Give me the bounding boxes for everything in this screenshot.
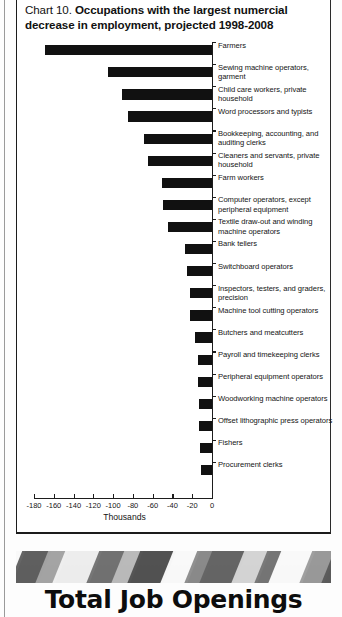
bar [122, 89, 212, 99]
x-axis-tick [212, 494, 213, 499]
bar [201, 465, 212, 475]
bar-label: Offset lithographic press operators [218, 416, 336, 425]
bar [190, 288, 212, 298]
category-tick [212, 241, 216, 242]
bar-row: Fishers [17, 440, 332, 462]
category-tick [212, 396, 216, 397]
chart-title: Chart 10. Occupations with the largest n… [25, 3, 325, 32]
category-tick [212, 285, 216, 286]
bar-label: Woodworking machine operators [218, 394, 336, 403]
bar [199, 399, 212, 409]
bar-row: Bank tellers [17, 241, 332, 263]
category-tick [212, 418, 216, 419]
bar [190, 310, 212, 320]
category-tick [212, 130, 216, 131]
bar-row: Farm workers [17, 175, 332, 197]
category-tick [212, 42, 216, 43]
x-axis-tick [113, 494, 114, 499]
category-tick [212, 351, 216, 352]
x-axis-tick [172, 494, 173, 499]
bar-row: Procurement clerks [17, 462, 332, 484]
bar-row: Computer operators, except peripheral eq… [17, 197, 332, 219]
category-tick [212, 64, 216, 65]
bar-label: Bookkeeping, accounting, and auditing cl… [218, 129, 336, 148]
bar-label: Inspectors, testers, and graders, precis… [218, 284, 336, 303]
bar-row: Switchboard operators [17, 263, 332, 285]
x-axis-tick-label: -140 [66, 501, 81, 510]
x-axis-tick-label: -180 [26, 501, 41, 510]
x-axis-tick [74, 494, 75, 499]
x-axis-title: Thousands [17, 512, 232, 522]
x-axis-tick [192, 494, 193, 499]
x-axis-tick-label: -20 [187, 501, 198, 510]
chart-title-prefix: Chart 10. [25, 3, 75, 16]
bar-row: Child care workers, private household [17, 86, 332, 108]
category-tick [212, 219, 216, 220]
category-tick [212, 153, 216, 154]
bar-row: Sewing machine operators, garment [17, 64, 332, 86]
bar-label: Cleaners and servants, private household [218, 151, 336, 170]
bar-label: Word processors and typists [218, 107, 336, 116]
bar-label: Machine tool cutting operators [218, 306, 336, 315]
bar-row: Machine tool cutting operators [17, 307, 332, 329]
bar [128, 111, 212, 121]
bar-label: Sewing machine operators, garment [218, 63, 336, 82]
bar-row: Cleaners and servants, private household [17, 153, 332, 175]
bar-label: Child care workers, private household [218, 85, 336, 104]
bar-label: Fishers [218, 438, 336, 447]
category-tick [212, 307, 216, 308]
x-axis-line [34, 498, 213, 499]
category-tick [212, 175, 216, 176]
bar-label: Computer operators, except peripheral eq… [218, 195, 336, 214]
bar [168, 222, 212, 232]
x-axis-tick [34, 494, 35, 499]
bar-label: Procurement clerks [218, 460, 336, 469]
x-axis-tick [93, 494, 94, 499]
bar [185, 244, 212, 254]
x-axis-tick-label: -80 [127, 501, 138, 510]
bar [108, 67, 212, 77]
x-axis-tick [153, 494, 154, 499]
bar-label: Farm workers [218, 173, 336, 182]
bar [198, 377, 212, 387]
bar-label: Bank tellers [218, 239, 336, 248]
bar [195, 332, 212, 342]
x-axis-tick-label: 0 [210, 501, 214, 510]
bar-row: Offset lithographic press operators [17, 418, 332, 440]
plot-area: FarmersSewing machine operators, garment… [17, 40, 332, 495]
bar [200, 443, 212, 453]
bar-label: Farmers [218, 41, 336, 50]
bar-label: Peripheral equipment operators [218, 372, 336, 381]
bar [148, 156, 212, 166]
bar [187, 266, 212, 276]
bar-row: Word processors and typists [17, 108, 332, 130]
category-tick [212, 197, 216, 198]
bar [45, 45, 212, 55]
bar [198, 355, 212, 365]
category-tick [212, 374, 216, 375]
bar-row: Woodworking machine operators [17, 396, 332, 418]
category-tick [212, 329, 216, 330]
bar [144, 134, 212, 144]
category-tick [212, 263, 216, 264]
category-tick [212, 462, 216, 463]
bar-label: Payroll and timekeeping clerks [218, 350, 336, 359]
category-tick [212, 108, 216, 109]
bar [162, 178, 212, 188]
x-axis-tick-label: -100 [106, 501, 121, 510]
bar-row: Inspectors, testers, and graders, precis… [17, 285, 332, 307]
bar-row: Textile draw-out and winding machine ope… [17, 219, 332, 241]
bar-label: Switchboard operators [218, 262, 336, 271]
x-axis-tick-label: -120 [86, 501, 101, 510]
x-axis-tick-label: -160 [46, 501, 61, 510]
chart-panel: Chart 10. Occupations with the largest n… [16, 0, 331, 534]
x-axis-tick [54, 494, 55, 499]
bar-row: Butchers and meatcutters [17, 329, 332, 351]
bar-label: Textile draw-out and winding machine ope… [218, 217, 336, 236]
category-tick [212, 86, 216, 87]
bar [199, 421, 212, 431]
bar-label: Butchers and meatcutters [218, 328, 336, 337]
bar-row: Payroll and timekeeping clerks [17, 351, 332, 373]
bar-row: Bookkeeping, accounting, and auditing cl… [17, 130, 332, 152]
bar-row: Farmers [17, 42, 332, 64]
